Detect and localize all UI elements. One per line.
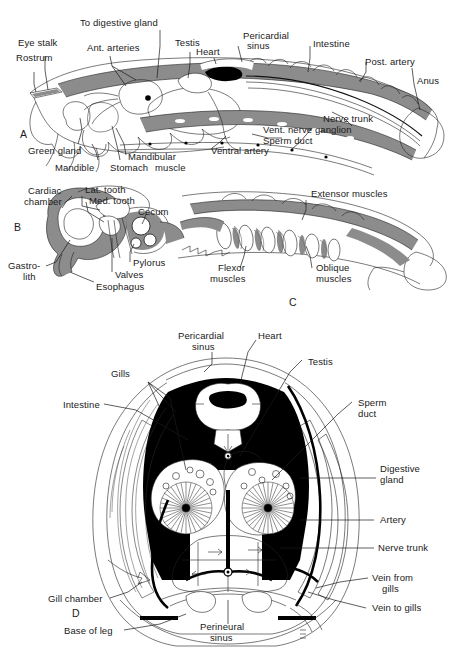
label-perineural-sinus-2: sinus <box>210 633 233 644</box>
label-ant-arteries: Ant. arteries <box>87 43 140 54</box>
label-extensor-muscles: Extensor muscles <box>311 189 388 200</box>
label-med-tooth: Med. tooth <box>89 196 135 207</box>
label-cardiac-chamber-1: Cardiac <box>28 186 61 197</box>
label-vein-from-gills-1: Vein from <box>372 573 413 584</box>
label-mandibular-muscle: muscle <box>155 163 186 174</box>
label-pericardial-sinus-d-2: sinus <box>192 342 215 353</box>
label-cardiac-chamber-2: chamber <box>24 197 62 208</box>
label-nerve-trunk-a: Nerve trunk <box>323 114 373 125</box>
label-mandibular: Mandibular <box>128 152 176 163</box>
label-stomach: Stomach <box>110 163 148 174</box>
label-nerve-trunk-d: Nerve trunk <box>378 543 428 554</box>
panel-c-leaders <box>240 200 312 268</box>
label-gastrolith-1: Gastro- <box>8 261 40 272</box>
label-anus: Anus <box>417 76 439 87</box>
label-flexor-1: Flexor <box>218 263 245 274</box>
label-oblique-1: Oblique <box>316 263 349 274</box>
panel-letter-a: A <box>20 128 27 140</box>
label-gills-d: Gills <box>111 369 130 380</box>
label-sperm-duct-d-2: duct <box>358 409 376 420</box>
label-heart-a: Heart <box>196 47 220 58</box>
panel-letter-d: D <box>72 607 80 619</box>
label-testis-d: Testis <box>308 357 333 368</box>
anatomy-figure: Eye stalk Rostrum To digestive gland Ant… <box>0 0 453 660</box>
label-vein-from-gills-2: gills <box>382 584 399 595</box>
label-pericardial-sinus-d-1: Pericardial <box>178 331 224 342</box>
panel-letter-b: B <box>14 221 21 233</box>
label-flexor-2: muscles <box>210 274 246 285</box>
label-lat-tooth: Lat. tooth <box>85 185 126 196</box>
label-eye-stalk: Eye stalk <box>18 38 57 49</box>
label-pylorus: Pylorus <box>133 258 165 269</box>
panel-d-artwork <box>93 358 359 646</box>
figure-artwork <box>0 0 453 660</box>
label-intestine-a: Intestine <box>313 39 350 50</box>
label-esophagus: Esophagus <box>96 282 144 293</box>
label-sperm-duct-d-1: Sperm <box>358 398 386 409</box>
label-intestine-d: Intestine <box>63 400 100 411</box>
label-ventral-artery: Ventral artery <box>211 146 269 157</box>
label-heart-d: Heart <box>258 331 282 342</box>
panel-letter-c: C <box>289 296 297 308</box>
label-vein-to-gills: Vein to gills <box>372 603 421 614</box>
label-base-of-leg: Base of leg <box>64 626 113 637</box>
panel-d-leaders <box>104 340 376 630</box>
label-oblique-2: muscles <box>316 274 352 285</box>
label-digestive-gland-1: Digestive <box>380 464 420 475</box>
label-to-digestive-gland: To digestive gland <box>80 18 158 29</box>
label-cecum: Cecum <box>138 207 169 218</box>
label-pericardial-sinus-a-2: sinus <box>247 41 270 52</box>
label-gill-chamber: Gill chamber <box>48 594 103 605</box>
label-digestive-gland-2: gland <box>380 475 404 486</box>
label-rostrum: Rostrum <box>16 53 53 64</box>
label-vent-nerve-ganglion: Vent. nerve ganglion <box>263 125 352 136</box>
label-green-gland: Green gland <box>28 146 81 157</box>
label-gastrolith-2: lith <box>23 272 36 283</box>
label-artery-d: Artery <box>380 515 406 526</box>
label-valves: Valves <box>115 270 143 281</box>
label-post-artery: Post. artery <box>365 57 415 68</box>
label-sperm-duct-a: Sperm duct <box>263 136 313 147</box>
label-perineural-sinus-1: Perineural <box>200 622 244 633</box>
panel-a-artwork <box>30 58 444 175</box>
label-mandible: Mandible <box>55 163 94 174</box>
